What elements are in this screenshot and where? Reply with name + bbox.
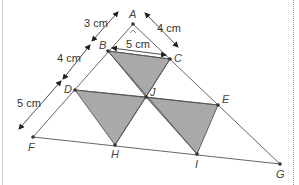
dim-label-ac: 4 cm xyxy=(157,22,181,34)
point-e xyxy=(216,103,220,107)
dim-label-df: 5 cm xyxy=(17,97,41,109)
point-b xyxy=(106,49,110,53)
point-c xyxy=(168,57,172,61)
label-i: I xyxy=(195,158,198,170)
shaded-triangle-djh xyxy=(75,90,146,145)
label-j: J xyxy=(149,86,156,98)
label-d: D xyxy=(64,83,72,95)
point-i xyxy=(195,152,199,156)
point-g xyxy=(278,162,282,166)
label-f: F xyxy=(28,141,36,153)
shaded-triangle-jei xyxy=(146,97,218,154)
dim-label-bd: 4 cm xyxy=(57,52,81,64)
point-a xyxy=(131,22,135,26)
triangle-diagram: 3 cm 4 cm 5 cm 4 cm 5 cm A B C D J E F H… xyxy=(0,0,299,185)
label-g: G xyxy=(276,168,285,180)
label-h: H xyxy=(111,148,119,160)
point-h xyxy=(113,143,117,147)
point-d xyxy=(73,88,77,92)
label-e: E xyxy=(222,93,230,105)
label-a: A xyxy=(128,8,136,20)
angle-mark-a xyxy=(130,30,136,33)
dim-label-bc: 5 cm xyxy=(126,38,150,50)
point-f xyxy=(31,135,35,139)
point-j xyxy=(144,95,148,99)
label-b: B xyxy=(99,39,106,51)
label-c: C xyxy=(174,52,182,64)
edge-fg xyxy=(33,137,280,164)
dim-label-ab: 3 cm xyxy=(84,17,108,29)
